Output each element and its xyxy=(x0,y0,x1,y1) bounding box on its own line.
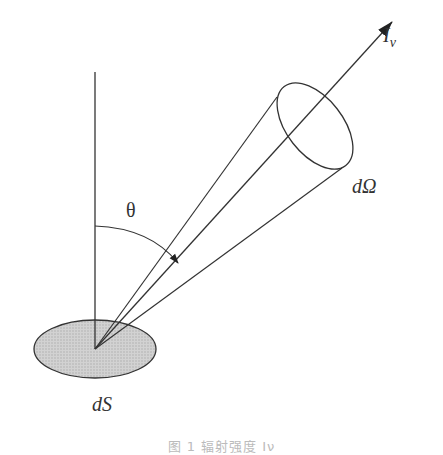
solid-angle-label-text: dΩ xyxy=(352,175,376,197)
theta-arc-arrow xyxy=(95,226,178,263)
solid-angle-ellipse xyxy=(262,69,368,182)
theta-label: θ xyxy=(126,199,136,221)
cone-edge-lower xyxy=(95,168,342,349)
intensity-ray-arrow xyxy=(95,22,392,349)
intensity-label-sub: ν xyxy=(390,35,397,50)
solid-angle-label: dΩ xyxy=(352,175,376,197)
surface-label: dS xyxy=(92,393,112,415)
intensity-label: Iν xyxy=(382,24,397,50)
cone-edge-upper xyxy=(95,97,277,349)
figure-caption: 图 1 辐射强度 Iν xyxy=(0,436,443,455)
